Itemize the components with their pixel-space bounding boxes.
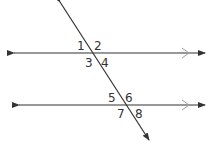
angle-label-4: 4 [101, 56, 109, 70]
angle-label-5: 5 [108, 91, 116, 105]
transversal-diagram: 1 2 3 4 5 6 7 8 [0, 0, 215, 144]
angle-label-7: 7 [117, 107, 125, 121]
angle-label-8: 8 [135, 107, 143, 121]
angle-label-2: 2 [94, 39, 102, 53]
angle-label-6: 6 [125, 91, 133, 105]
angle-label-1: 1 [77, 39, 85, 53]
angle-label-3: 3 [85, 56, 93, 70]
diagram-svg: 1 2 3 4 5 6 7 8 [0, 0, 215, 144]
